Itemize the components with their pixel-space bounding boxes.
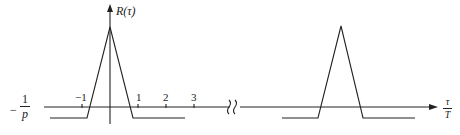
- waveform-pulse-2: [282, 26, 415, 118]
- level-label-fraction: 1 p: [20, 93, 30, 120]
- y-axis-label: R(τ): [116, 5, 136, 17]
- tick-label-3: 3: [191, 92, 197, 103]
- level-label-numerator: 1: [20, 93, 30, 105]
- x-axis-label-numerator: τ: [443, 97, 452, 107]
- tick-label-1: 1: [136, 92, 142, 103]
- tick-label-2: 2: [163, 92, 169, 103]
- level-label-denominator: p: [20, 108, 30, 120]
- tick-label-minus1: −1: [75, 92, 87, 103]
- axis-break-icon: [228, 100, 237, 114]
- waveform-pulse-1: [50, 27, 185, 118]
- y-axis-arrow-icon: [107, 4, 113, 12]
- x-axis-label-denominator: T: [443, 110, 452, 120]
- x-axis-arrow-icon: [429, 104, 438, 110]
- x-axis-label: τ T: [443, 97, 452, 120]
- autocorrelation-diagram: [0, 0, 460, 135]
- level-label-sign: −: [10, 104, 17, 116]
